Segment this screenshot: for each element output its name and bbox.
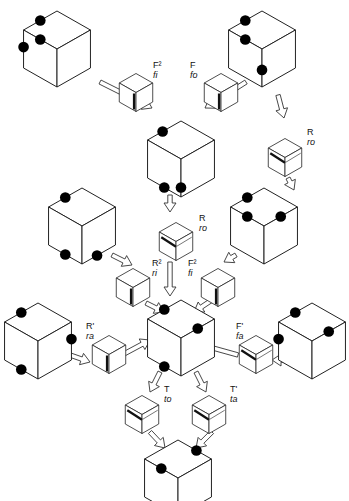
move-notation: R² xyxy=(152,258,162,268)
marker-dot xyxy=(275,211,286,222)
move-code: fi xyxy=(153,70,162,80)
move-cube-R-ro-center xyxy=(159,223,192,261)
move-cube-R2-ri xyxy=(116,269,149,307)
figure-caption: Figure (caption cut off at bottom edge) xyxy=(10,494,349,501)
marker-dot xyxy=(323,326,334,337)
move-code: ri xyxy=(152,268,162,278)
arrow-c2-to-t xyxy=(149,371,162,392)
marker-dot xyxy=(242,211,253,222)
arrow-r-to-mr xyxy=(285,177,296,190)
move-code: fa xyxy=(236,331,244,341)
marker-dot xyxy=(257,65,268,76)
move-code: ro xyxy=(307,137,315,147)
marker-dot xyxy=(35,34,46,45)
marker-dot xyxy=(35,15,46,26)
marker-dot xyxy=(66,334,77,345)
marker-dot xyxy=(60,249,71,260)
marker-dot xyxy=(273,334,284,345)
move-label-R-ro-right: Rro xyxy=(307,127,315,147)
move-cube-Tp-ta xyxy=(192,396,225,434)
cube-bottom-left xyxy=(5,303,77,379)
marker-dot xyxy=(157,126,168,137)
arrow-c2-to-tp xyxy=(194,371,207,392)
move-code: to xyxy=(164,394,172,404)
arrow-tr-to-r xyxy=(276,94,288,118)
move-label-R2-ri: R²ri xyxy=(152,258,162,278)
move-notation: F xyxy=(190,60,198,70)
marker-dot xyxy=(159,361,170,372)
cube-mid-right xyxy=(231,188,298,264)
move-label-R-ro-center: Rro xyxy=(199,213,207,233)
move-notation: T xyxy=(164,384,172,394)
marker-dot xyxy=(159,182,170,193)
move-label-Fp-fa: F'fa xyxy=(236,321,244,341)
move-label-F2-fi-2: F²fi xyxy=(188,258,197,278)
move-notation: R' xyxy=(86,321,94,331)
marker-dot xyxy=(156,463,167,474)
move-notation: F² xyxy=(153,60,162,70)
move-cube-R-ro-right xyxy=(268,139,301,177)
move-label-T-to: Tto xyxy=(164,384,172,404)
arrow-t-to-bc xyxy=(148,430,165,448)
marker-dot xyxy=(242,192,253,203)
move-code: ro xyxy=(199,223,207,233)
move-label-F-fo: Ffo xyxy=(190,60,198,80)
cube-mid-left xyxy=(49,188,116,264)
arrow-f2in xyxy=(224,252,237,262)
cube-bottom-right xyxy=(273,303,345,379)
arrow-rc-to-c2 xyxy=(164,262,176,296)
marker-dot xyxy=(18,42,29,53)
move-cube-Fp-fa xyxy=(239,336,272,374)
move-code: fi xyxy=(188,268,197,278)
move-cube-Rp-ra xyxy=(92,336,125,374)
marker-dot xyxy=(290,307,301,318)
marker-dot xyxy=(192,323,203,334)
move-cube-T-to xyxy=(125,396,158,434)
arrow-c1-to-r xyxy=(164,195,176,212)
arrow-ml-to-r2 xyxy=(111,253,132,266)
cube-top-right xyxy=(229,11,296,87)
move-notation: F² xyxy=(188,258,197,268)
move-notation: R xyxy=(307,127,315,137)
cube-bottom-center xyxy=(145,440,212,501)
move-label-Rp-ra: R'ra xyxy=(86,321,94,341)
marker-dot xyxy=(240,15,251,26)
marker-dot xyxy=(16,364,27,375)
move-label-F2-fi: F²fi xyxy=(153,60,162,80)
move-code: ta xyxy=(230,394,238,404)
marker-dot xyxy=(16,307,27,318)
move-notation: R xyxy=(199,213,207,223)
arrow-tp-to-bc xyxy=(196,430,214,448)
move-notation: F' xyxy=(236,321,244,331)
move-code: ra xyxy=(86,331,94,341)
marker-dot xyxy=(240,34,251,45)
marker-dot xyxy=(191,445,202,456)
marker-dot xyxy=(60,192,71,203)
cube-move-diagram xyxy=(0,0,349,501)
marker-dot xyxy=(176,182,187,193)
move-code: fo xyxy=(190,70,198,80)
cube-center-1 xyxy=(148,121,215,197)
cube-top-left xyxy=(18,11,90,87)
marker-dot xyxy=(92,250,103,261)
arrow-bl-to-rp xyxy=(69,353,90,365)
move-label-Tp-ta: T'ta xyxy=(230,384,238,404)
marker-dot xyxy=(159,304,170,315)
move-notation: T' xyxy=(230,384,238,394)
